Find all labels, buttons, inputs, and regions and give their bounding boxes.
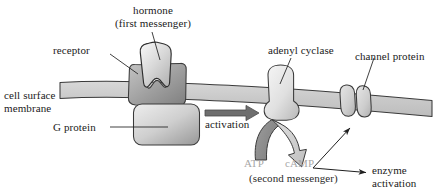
adenyl-cyclase-label: adenyl cyclase (268, 44, 334, 57)
camp-to-channel-arrow (313, 128, 350, 168)
adenyl-cyclase-shape (264, 65, 299, 120)
activation-label: activation (205, 118, 249, 131)
g-protein-shape (134, 104, 200, 145)
atp-label: ATP (244, 157, 264, 170)
leader-line-channel-protein (363, 58, 374, 90)
enzyme-activation-label: enzyme activation (372, 164, 430, 189)
hormone-label-line2: (first messenger) (93, 17, 213, 30)
cell-surface-membrane-label-line2: membrane (4, 102, 84, 115)
cell-surface-membrane-label: cell surface membrane (4, 89, 84, 114)
cell-surface-membrane-label-line1: cell surface (4, 89, 84, 102)
channel-protein-label: channel protein (355, 50, 425, 63)
second-messenger-label: (second messenger) (249, 172, 338, 185)
receptor-label: receptor (53, 44, 90, 57)
cell-signalling-diagram: hormone (first messenger) receptor cell … (0, 0, 433, 192)
camp-label: cAMP (285, 157, 314, 170)
hormone-label-line1: hormone (93, 4, 213, 17)
g-protein-label: G protein (53, 121, 96, 134)
enzyme-activation-label-line2: activation (372, 177, 430, 190)
hormone-label: hormone (first messenger) (93, 4, 213, 29)
enzyme-activation-label-line1: enzyme (372, 164, 430, 177)
